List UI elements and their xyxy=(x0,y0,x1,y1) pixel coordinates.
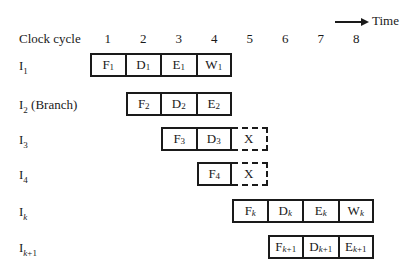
pipeline-stage-cell: Ek xyxy=(303,199,339,223)
clock-cycle-label: Clock cycle xyxy=(19,31,81,47)
pipeline-stage-cell: D1 xyxy=(126,53,162,77)
time-arrow-icon xyxy=(335,21,363,23)
row-label-instruction: I1 xyxy=(19,58,28,76)
cycle-number-6: 6 xyxy=(275,31,295,47)
cycle-number-1: 1 xyxy=(98,31,118,47)
pipeline-stage-cell: Fk xyxy=(232,199,268,223)
pipeline-stage-cell: Wk xyxy=(339,199,375,223)
cycle-number-2: 2 xyxy=(133,31,153,47)
cycle-number-5: 5 xyxy=(240,31,260,47)
pipeline-stage-cell: Dk+1 xyxy=(303,235,339,259)
row-label-instruction: Ik+1 xyxy=(19,240,37,258)
cycle-number-8: 8 xyxy=(346,31,366,47)
pipeline-stage-cell: Fk+1 xyxy=(268,235,304,259)
row-label-instruction: I3 xyxy=(19,132,28,150)
pipeline-stage-cell: Ek+1 xyxy=(339,235,375,259)
flushed-stage-cell: X xyxy=(232,162,268,186)
pipeline-stage-cell: F3 xyxy=(161,127,197,151)
pipeline-stage-cell: Dk xyxy=(268,199,304,223)
row-label-instruction: I4 xyxy=(19,167,28,185)
pipeline-stage-cell: W1 xyxy=(197,53,233,77)
pipeline-stage-cell: F1 xyxy=(90,53,126,77)
cycle-number-4: 4 xyxy=(204,31,224,47)
pipeline-stage-cell: D3 xyxy=(197,127,233,151)
pipeline-stage-cell: D2 xyxy=(161,92,197,116)
pipeline-stage-cell: E1 xyxy=(161,53,197,77)
flushed-stage-cell: X xyxy=(232,127,268,151)
cycle-number-7: 7 xyxy=(311,31,331,47)
pipeline-stage-cell: F2 xyxy=(126,92,162,116)
time-label: Time xyxy=(372,13,399,29)
pipeline-stage-cell: F4 xyxy=(197,162,233,186)
pipeline-stage-cell: E2 xyxy=(197,92,233,116)
cycle-number-3: 3 xyxy=(169,31,189,47)
row-label-instruction: I2 (Branch) xyxy=(19,97,77,115)
row-label-instruction: Ik xyxy=(19,204,27,222)
